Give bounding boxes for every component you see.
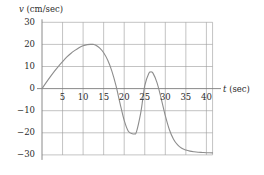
y-tick-label: −20: [8, 127, 35, 137]
x-tick-label: 35: [175, 92, 197, 102]
x-tick-label: 10: [72, 92, 94, 102]
x-tick-label: 30: [154, 92, 176, 102]
y-tick-label: −30: [8, 149, 35, 159]
y-tick-label: 10: [8, 61, 35, 71]
x-tick-label: 25: [134, 92, 156, 102]
chart-figure: v (cm/sec) t (sec) 3020100−10−20−30 5101…: [0, 0, 264, 175]
y-tick-label: 30: [8, 17, 35, 27]
y-tick-label: 0: [8, 83, 35, 93]
x-tick-label: 20: [113, 92, 135, 102]
x-tick-label: 40: [195, 92, 217, 102]
x-tick-label: 15: [93, 92, 115, 102]
y-tick-label: −10: [8, 105, 35, 115]
x-tick-label: 5: [52, 92, 74, 102]
y-tick-label: 20: [8, 39, 35, 49]
plot-area: [0, 0, 264, 175]
